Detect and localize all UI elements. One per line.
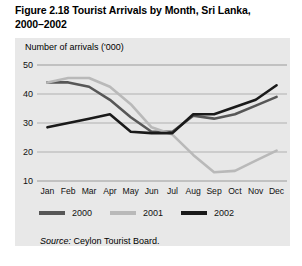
- series-line-2000: [47, 82, 276, 131]
- legend-item-2000: 2000: [39, 208, 92, 218]
- legend-label-2002: 2002: [214, 208, 234, 218]
- figure-title-line-2: 2000–2002: [15, 18, 290, 32]
- legend-item-2001: 2001: [110, 208, 163, 218]
- x-axis-labels: Jan Feb Mar Apr May Jun Jul Aug Sep Oct …: [37, 186, 287, 196]
- legend-label-2000: 2000: [72, 208, 92, 218]
- legend-swatch-2000: [39, 211, 65, 215]
- x-tick-label-sep: Sep: [204, 186, 225, 196]
- x-tick-label-jul: Jul: [162, 186, 183, 196]
- legend-item-2002: 2002: [181, 208, 234, 218]
- figure-title-line-1: Figure 2.18 Tourist Arrivals by Month, S…: [15, 4, 290, 18]
- x-tick-label-mar: Mar: [79, 186, 100, 196]
- x-tick-label-may: May: [120, 186, 141, 196]
- series-line-2001: [47, 78, 276, 172]
- chart-legend: 2000 2001 2002: [39, 208, 252, 218]
- figure-title: Figure 2.18 Tourist Arrivals by Month, S…: [15, 4, 290, 32]
- legend-swatch-2002: [181, 211, 207, 215]
- series-line-2002: [47, 85, 276, 133]
- chart-panel: Number of arrivals ('000) 50 40 30 20 10…: [15, 38, 290, 246]
- legend-label-2001: 2001: [143, 208, 163, 218]
- x-tick-label-apr: Apr: [99, 186, 120, 196]
- x-tick-label-aug: Aug: [183, 186, 204, 196]
- series-lines: [47, 78, 276, 172]
- figure-container: Figure 2.18 Tourist Arrivals by Month, S…: [0, 0, 302, 266]
- x-tick-label-jan: Jan: [37, 186, 58, 196]
- x-tick-label-jun: Jun: [141, 186, 162, 196]
- source-note: Source: Ceylon Tourist Board.: [40, 236, 159, 246]
- x-tick-label-dec: Dec: [266, 186, 287, 196]
- x-tick-label-oct: Oct: [224, 186, 245, 196]
- source-text: Ceylon Tourist Board.: [71, 236, 159, 246]
- x-tick-label-feb: Feb: [58, 186, 79, 196]
- x-tick-label-nov: Nov: [245, 186, 266, 196]
- legend-swatch-2001: [110, 211, 136, 215]
- source-label: Source:: [40, 236, 71, 246]
